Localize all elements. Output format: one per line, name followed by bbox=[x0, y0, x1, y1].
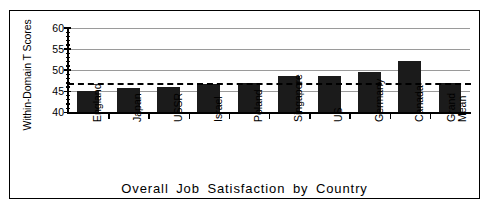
grand-mean-reference-line bbox=[68, 83, 471, 85]
y-axis-label-container: Within-Domain T Scores bbox=[8, 48, 22, 166]
category-label: Japan bbox=[132, 93, 143, 122]
x-tick-mark bbox=[309, 113, 310, 119]
category-label: England bbox=[92, 83, 103, 122]
category-label: USSR bbox=[173, 93, 184, 122]
x-tick-mark bbox=[148, 113, 149, 119]
x-tick-mark bbox=[390, 113, 391, 119]
x-tick-mark bbox=[269, 113, 270, 119]
category-label: Mean bbox=[457, 96, 468, 122]
x-tick-mark bbox=[229, 113, 230, 119]
x-tick-mark bbox=[349, 113, 350, 119]
category-label: Poland bbox=[253, 89, 264, 122]
bar-series bbox=[68, 28, 470, 112]
category-label: Israel bbox=[213, 96, 224, 122]
y-tick-label: 55 bbox=[42, 44, 64, 54]
chart-title: Overall Job Satisfaction by Country bbox=[9, 181, 480, 196]
y-tick-label: 40 bbox=[42, 107, 64, 117]
category-label: Germany bbox=[374, 79, 385, 122]
x-tick-mark bbox=[430, 113, 431, 119]
y-tick-label: 60 bbox=[42, 23, 64, 33]
category-label: Canada bbox=[414, 85, 425, 122]
x-tick-mark bbox=[189, 113, 190, 119]
chart-figure: Within-Domain T Scores 40 45 50 55 60 En… bbox=[0, 0, 492, 216]
category-label: Singapore bbox=[293, 74, 304, 122]
y-axis-label: Within-Domain T Scores bbox=[20, 16, 34, 134]
y-tick-label: 50 bbox=[42, 65, 64, 75]
x-tick-mark bbox=[108, 113, 109, 119]
y-tick-label: 45 bbox=[42, 86, 64, 96]
x-axis-category-labels: EnglandJapanUSSRIsraelPolandSingaporeUSG… bbox=[68, 120, 470, 182]
category-label: US bbox=[333, 107, 344, 122]
